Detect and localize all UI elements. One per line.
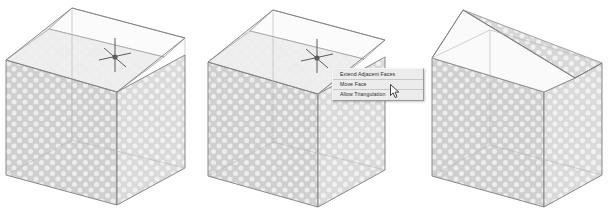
panel-box-before-selection	[0, 0, 205, 216]
menu-item-allow-triangulation[interactable]: Allow Triangulation	[333, 90, 423, 99]
panel-box-with-context-menu	[205, 0, 420, 216]
panel-box-after-face-move	[420, 0, 614, 216]
box-drawing-3	[420, 0, 614, 216]
menu-item-move-face[interactable]: Move Face	[333, 80, 423, 90]
comparison-figure: Extend Adjacent Faces Move Face Allow Tr…	[0, 0, 614, 216]
box-drawing-1	[0, 0, 205, 216]
menu-item-extend-adjacent-faces[interactable]: Extend Adjacent Faces	[333, 70, 423, 80]
box-drawing-2	[205, 0, 420, 216]
face-options-context-menu[interactable]: Extend Adjacent Faces Move Face Allow Tr…	[332, 68, 424, 101]
